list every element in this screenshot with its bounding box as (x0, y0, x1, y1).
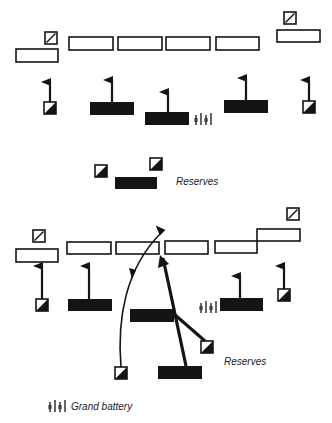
cavalry-square-icon (287, 208, 299, 220)
legend: Grand battery (48, 400, 133, 412)
infantry-line-box (16, 249, 58, 262)
half-filled-square-icon (303, 101, 315, 113)
battle-formation-diagram: Reserves R (0, 0, 332, 423)
top-reserves: Reserves (95, 158, 218, 189)
top-formation: Reserves (16, 12, 320, 189)
bottom-formation: Reserves (16, 208, 300, 379)
infantry-line-box (166, 37, 210, 50)
artillery-battery-icon (194, 113, 211, 125)
infantry-line-box (215, 241, 257, 253)
cavalry-square-icon (45, 32, 57, 44)
massed-unit (220, 298, 263, 311)
half-filled-square-icon (278, 289, 290, 301)
massed-unit (68, 299, 112, 311)
top-front-line (16, 30, 320, 62)
infantry-line-box (216, 37, 259, 50)
artillery-battery-icon (199, 301, 216, 313)
half-filled-square-icon (95, 165, 107, 177)
half-filled-square-icon (36, 299, 48, 311)
infantry-line-box (277, 30, 320, 42)
reserve-massed-unit (115, 177, 157, 189)
reserve-massed-unit (158, 366, 202, 379)
half-filled-square-icon (44, 102, 56, 114)
infantry-line-box (118, 37, 162, 50)
bottom-front-line (16, 229, 300, 262)
infantry-line-box (69, 37, 113, 50)
reserves-label: Reserves (224, 356, 266, 367)
reserves-label: Reserves (176, 176, 218, 187)
infantry-line-box (116, 242, 159, 254)
massed-unit (224, 100, 268, 113)
cavalry-square-icon (33, 230, 45, 242)
artillery-battery-icon (48, 400, 65, 412)
half-filled-square-icon (201, 341, 213, 353)
half-filled-square-icon (150, 158, 162, 170)
infantry-line-box (16, 49, 58, 62)
infantry-line-box (67, 242, 111, 254)
massed-unit (90, 102, 134, 115)
massed-unit (130, 309, 174, 322)
half-filled-square-icon (115, 367, 127, 379)
grand-battery-label: Grand battery (71, 401, 133, 412)
massed-unit (145, 112, 189, 125)
cavalry-square-icon (284, 12, 296, 24)
infantry-line-box (165, 241, 208, 254)
infantry-line-box (257, 229, 300, 241)
